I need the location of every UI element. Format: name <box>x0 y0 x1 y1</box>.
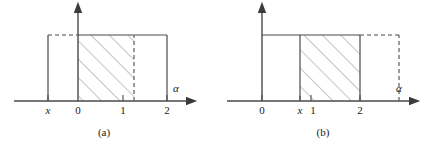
tick-label-a-3: 2 <box>164 104 170 116</box>
hatched-region-a <box>78 35 134 101</box>
axis-label-a: α <box>173 82 179 94</box>
caption-a: (a) <box>98 126 111 139</box>
tick-label-b-2: 1 <box>310 104 316 116</box>
axis-label-b: α <box>396 82 402 94</box>
hatched-region-b <box>300 35 360 101</box>
panel-a: x 0 1 2 α (a) <box>0 0 213 145</box>
tick-label-b-0: 0 <box>259 104 265 116</box>
tick-label-b-3: 2 <box>357 104 363 116</box>
caption-b: (b) <box>317 126 330 139</box>
panel-b: 0 x 1 2 α (b) <box>213 0 425 145</box>
tick-label-b-1: x <box>297 104 303 116</box>
tick-label-a-2: 1 <box>120 104 126 116</box>
tick-label-a-1: 0 <box>75 104 81 116</box>
figure-container: x 0 1 2 α (a) <box>0 0 425 145</box>
tick-label-a-0: x <box>45 104 51 116</box>
